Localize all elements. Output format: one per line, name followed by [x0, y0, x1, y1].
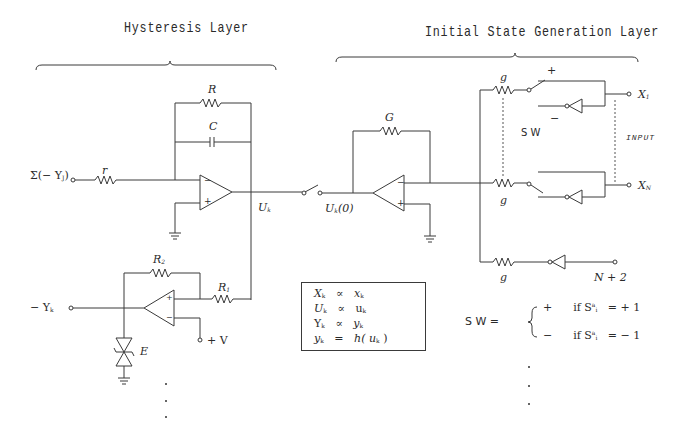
- comparator-minus-sign: −: [166, 314, 173, 322]
- resistor-g1-label: g: [500, 72, 507, 83]
- hysteresis-layer-brace: [36, 61, 276, 70]
- comparator-plus-sign: +: [166, 294, 173, 302]
- equation-row: Uk ∝ uk: [314, 302, 366, 315]
- input-sum-label: Σ(− YJ): [30, 170, 69, 181]
- hysteresis-layer-title: Hysteresis Layer: [124, 20, 249, 37]
- hopfield-hysteresis-circuit-diagram: Hysteresis Layer Initial State Generatio…: [0, 0, 681, 437]
- switch-plus-label: +: [547, 65, 556, 76]
- input-label: INPUT: [626, 134, 655, 142]
- switch-minus-label: −: [550, 113, 559, 124]
- resistor-G-label: G: [385, 112, 394, 123]
- amp-plus-sign: +: [397, 199, 405, 208]
- sampling-switch[interactable]: [295, 185, 373, 195]
- sw-label: S W: [521, 128, 540, 138]
- resistor-gN2-label: g: [500, 272, 507, 283]
- resistor-R1-label: R1: [218, 282, 230, 293]
- resistor-gN-label: g: [500, 195, 507, 206]
- sw-case-brace: [528, 307, 537, 337]
- equation-row: yk = h( uk ): [314, 332, 387, 345]
- integrator-plus-sign: +: [204, 197, 212, 206]
- equation-box: Xk ∝ xk Uk ∝ uk Yk ∝ yk yk = h( uk ): [301, 282, 426, 351]
- zener-E-label: E: [140, 346, 148, 357]
- initial-state-layer-title: Initial State Generation Layer: [425, 24, 659, 41]
- sw-case-plus: + if Sai = + 1: [543, 302, 640, 313]
- integrator-circuit: [71, 99, 295, 300]
- circuit-wiring: [0, 0, 681, 437]
- capacitor-C-label: C: [209, 121, 217, 132]
- initial-state-amplifier: [353, 127, 470, 242]
- resistor-R-label: R: [208, 84, 216, 95]
- resistor-r-label: r: [102, 165, 107, 176]
- X-1-label: X1: [638, 89, 650, 100]
- sw-case-minus: − if Sai = − 1: [543, 330, 640, 341]
- equation-row: Yk ∝ yk: [314, 317, 363, 330]
- U-k-label: Uk: [258, 202, 271, 213]
- integrator-minus-sign: −: [204, 176, 212, 185]
- X-N-label: XN: [638, 180, 651, 191]
- sw-definition-lhs: S W =: [465, 316, 499, 327]
- amp-minus-sign: −: [397, 178, 405, 187]
- input-row-x1: [480, 80, 631, 113]
- plus-V-label: + V: [207, 335, 228, 346]
- initial-state-layer-brace: [336, 53, 638, 62]
- U-k-0-label: Uk(0): [325, 203, 354, 214]
- N-plus-2-label: N + 2: [594, 272, 627, 283]
- bias-row-n-plus-2: [480, 255, 617, 269]
- resistor-R2-label: R2: [153, 254, 165, 265]
- neg-Y-k-label: − Yk: [30, 302, 54, 313]
- equation-row: Xk ∝ xk: [314, 287, 364, 300]
